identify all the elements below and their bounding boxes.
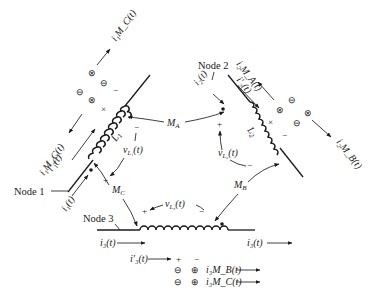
inductor-l3 (97, 222, 255, 230)
svg-text:+: + (176, 254, 181, 264)
svg-text:+: + (217, 119, 222, 129)
svg-text:i₃(t): i₃(t) (100, 237, 116, 249)
svg-text:⊕: ⊕ (191, 265, 199, 275)
dot-l2 (221, 107, 225, 111)
node-2-label: Node 2 (198, 60, 229, 71)
voltage-vl2: + vL₂(t) − (217, 119, 252, 170)
svg-text:+: + (142, 206, 147, 216)
dot-l1 (89, 168, 93, 172)
svg-text:−: − (247, 160, 252, 170)
svg-text:−: − (282, 130, 287, 140)
svg-text:⊗: ⊗ (304, 108, 312, 118)
mutual-mb: MB (215, 164, 279, 221)
svg-text:i₁M_C(t): i₁M_C(t) (109, 7, 140, 44)
svg-text:MA: MA (166, 117, 180, 130)
l1-label: L1 (108, 129, 124, 145)
mutual-ma: MA (128, 112, 224, 130)
svg-text:⊖: ⊖ (288, 95, 296, 105)
svg-text:−: − (199, 206, 204, 216)
svg-text:⊖: ⊖ (100, 78, 108, 88)
svg-text:−: − (113, 85, 118, 95)
svg-text:⊖: ⊖ (293, 118, 301, 128)
svg-text:i₁(t): i₁(t) (59, 193, 78, 213)
dot-l3 (220, 222, 224, 226)
currents-l3: i₃(t) i₃(t) i′₃(t) + − ⊖ ⊕ i₃M_B(t) ⊖ ⊕ … (100, 237, 292, 288)
voltage-vl3: + vL₃(t) − (142, 198, 204, 216)
svg-text:⊖: ⊖ (76, 87, 84, 97)
svg-text:vL₃(t): vL₃(t) (165, 198, 185, 210)
svg-text:i₂M_B(t): i₂M_B(t) (334, 136, 365, 172)
node-3-label: Node 3 (83, 213, 114, 224)
svg-text:MC: MC (111, 184, 125, 197)
svg-text:⊗: ⊗ (88, 95, 96, 105)
voltage-vl1: − vL₁(t) + (103, 122, 143, 185)
svg-text:MB: MB (233, 179, 247, 192)
currents-l1: i₁(t) i′₁(t) i₁M_C(t) i₁M_C(t) ⊗ ⊖ ⊖ ⊗ −… (37, 7, 140, 214)
svg-text:×: × (101, 104, 106, 114)
svg-text:⊖: ⊖ (174, 277, 182, 287)
coupled-inductor-diagram: Node 1 Node 2 Node 3 L1 L2 MA MB MC − vL… (0, 0, 372, 299)
svg-text:⊗: ⊗ (276, 105, 284, 115)
node-2-leader (212, 72, 214, 80)
svg-text:⊕: ⊕ (191, 277, 199, 287)
svg-text:⊖: ⊖ (174, 265, 182, 275)
l2-label: L2 (243, 124, 260, 140)
svg-text:⊗: ⊗ (88, 68, 96, 78)
svg-text:−: − (194, 254, 199, 264)
svg-text:×: × (268, 117, 273, 127)
node-1-label: Node 1 (14, 186, 45, 197)
svg-text:i′₃(t): i′₃(t) (130, 253, 149, 265)
svg-text:i₃(t): i₃(t) (247, 237, 263, 249)
svg-text:+: + (103, 175, 108, 185)
node-3-leader (115, 224, 120, 230)
svg-text:vL₁(t): vL₁(t) (123, 144, 143, 156)
svg-text:−: − (134, 122, 139, 132)
svg-text:vL₂(t): vL₂(t) (218, 147, 238, 159)
